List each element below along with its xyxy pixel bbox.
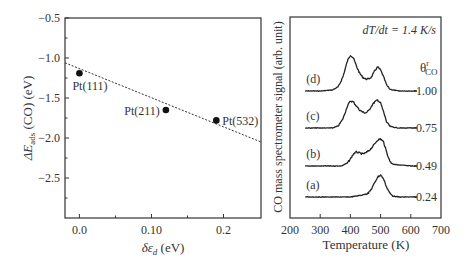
tpd-curve (305, 139, 417, 167)
tpd-curve (305, 175, 417, 197)
y-tick-label: −2.5 (38, 171, 60, 185)
left-panel: −0.5−1.0−1.5−2.0−2.5 0.00.100.2 Pt(111)P… (20, 11, 261, 257)
point-label: Pt(532) (222, 114, 258, 128)
x-tick-label: 0.2 (216, 223, 231, 237)
right-y-axis-label: CO mass spectrometer signal (arb. unit) (271, 21, 285, 212)
point-label: Pt(111) (72, 79, 107, 93)
data-point (213, 117, 220, 124)
x-tick-label: 500 (372, 223, 390, 237)
coverage-legend-title: θrCO (420, 59, 438, 77)
x-tick-label: 700 (432, 223, 450, 237)
left-y-axis-label: ΔEads (CO) (eV) (20, 76, 37, 162)
left-x-axis-label: δεd (eV) (142, 240, 185, 257)
coverage-label: 0.75 (416, 121, 437, 135)
tpd-curve (305, 56, 417, 92)
fit-line (65, 63, 261, 142)
curve-label: (d) (306, 72, 320, 86)
coverage-label: 0.24 (416, 190, 437, 204)
tpd-curves: (d)1.00(c)0.75(b)0.49(a)0.24 (305, 56, 437, 204)
data-point (76, 70, 83, 77)
right-panel: 200300400500600700 (d)1.00(c)0.75(b)0.49… (271, 17, 450, 252)
figure: −0.5−1.0−1.5−2.0−2.5 0.00.100.2 Pt(111)P… (0, 0, 469, 265)
point-label: Pt(211) (124, 104, 160, 118)
curve-label: (a) (306, 178, 319, 192)
y-tick-label: −0.5 (38, 11, 60, 25)
coverage-label: 0.49 (416, 159, 437, 173)
x-tick-label: 0.0 (72, 223, 87, 237)
heating-rate-annotation: dT/dt = 1.4 K/s (363, 23, 437, 37)
data-point (163, 107, 170, 114)
x-tick-label: 300 (311, 223, 329, 237)
data-points: Pt(111)Pt(211)Pt(532) (72, 70, 258, 129)
y-tick-label: −1.5 (38, 91, 60, 105)
right-x-axis-label: Temperature (K) (323, 237, 410, 252)
x-tick-label: 0.10 (141, 223, 162, 237)
x-tick-label: 400 (341, 223, 359, 237)
coverage-label: 1.00 (416, 84, 437, 98)
tpd-curve (305, 100, 417, 129)
curve-label: (c) (306, 109, 319, 123)
x-tick-label: 200 (281, 223, 299, 237)
curve-label: (b) (306, 147, 320, 161)
left-y-ticks: −0.5−1.0−1.5−2.0−2.5 (38, 11, 69, 198)
y-tick-label: −2.0 (38, 131, 60, 145)
y-tick-label: −1.0 (38, 51, 60, 65)
x-tick-label: 600 (402, 223, 420, 237)
